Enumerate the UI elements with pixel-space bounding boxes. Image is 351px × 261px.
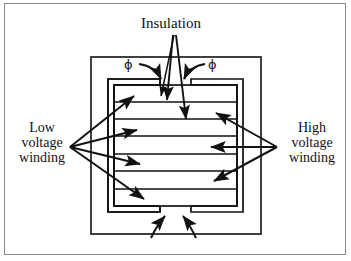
insulation-label: Insulation (116, 15, 226, 31)
flux-symbol-left: ϕ (124, 57, 133, 72)
winding-stack (114, 85, 237, 206)
figure-canvas: Insulation Low voltage winding High volt… (0, 0, 351, 261)
core-outline (91, 57, 261, 234)
high-voltage-winding-label: High voltage winding (277, 120, 347, 165)
flux-symbol-right: ϕ (208, 57, 217, 72)
low-voltage-leader-arrows (70, 96, 144, 199)
low-voltage-winding-label: Low voltage winding (8, 120, 76, 165)
flux-arrows-top (139, 64, 205, 79)
insulation-pointer-arrows (161, 35, 186, 119)
